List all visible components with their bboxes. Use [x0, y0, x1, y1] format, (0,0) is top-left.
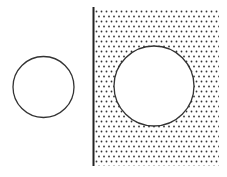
- diagram-canvas: [0, 0, 227, 177]
- large-circle: [114, 46, 194, 126]
- small-circle: [13, 57, 74, 118]
